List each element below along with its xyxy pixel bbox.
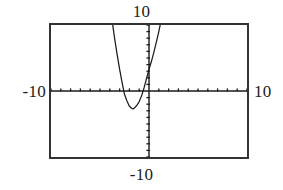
x-axis-min-label: -10 [4, 83, 46, 100]
data-curves [112, 25, 161, 109]
plot-frame [49, 23, 249, 159]
parabola-curve [112, 25, 161, 109]
x-axis-max-label: 10 [254, 83, 283, 100]
graph-figure: 10 -10 10 -10 [0, 0, 283, 190]
y-axis-max-label: 10 [0, 3, 283, 20]
y-axis-min-label: -10 [0, 166, 283, 183]
plot-canvas [51, 25, 247, 157]
